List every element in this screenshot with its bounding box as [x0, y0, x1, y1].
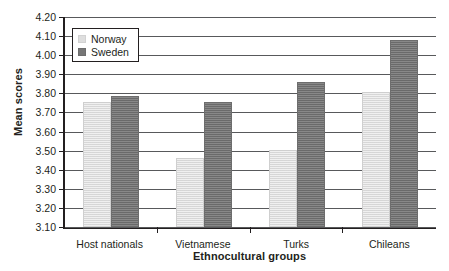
bar-pair: [251, 17, 344, 227]
y-axis-tick-label: 3.20: [22, 202, 56, 214]
legend-item-norway: Norway: [78, 32, 129, 45]
y-axis-tick-label: 4.20: [22, 11, 56, 23]
bar-sweden-chileans[interactable]: [390, 40, 418, 227]
bar-norway-host-nationals[interactable]: [83, 102, 111, 227]
bar-norway-turks[interactable]: [269, 150, 297, 227]
y-axis-tick-label: 3.60: [22, 126, 56, 138]
y-axis-tick: [59, 227, 65, 228]
x-axis-tick-label: Vietnamese: [156, 229, 249, 250]
bar-sweden-host-nationals[interactable]: [111, 96, 139, 227]
y-axis-tick-label: 3.70: [22, 106, 56, 118]
bar-group: [251, 17, 344, 227]
legend-swatch-sweden-icon: [78, 48, 86, 56]
bar-pair: [158, 17, 251, 227]
y-axis-tick-label: 3.90: [22, 68, 56, 80]
x-axis-tick-label: Host nationals: [63, 229, 156, 250]
y-axis-tick-label: 4.10: [22, 30, 56, 42]
bar-norway-vietnamese[interactable]: [176, 158, 204, 227]
bar-sweden-vietnamese[interactable]: [204, 102, 232, 227]
x-axis-tick-label: Chileans: [343, 229, 436, 250]
legend-item-sweden: Sweden: [78, 45, 129, 58]
y-axis-tick-label: 3.10: [22, 221, 56, 233]
bar-group: [158, 17, 251, 227]
gridline: [65, 227, 436, 228]
legend-label-sweden: Sweden: [91, 46, 129, 58]
legend-label-norway: Norway: [91, 33, 127, 45]
legend: Norway Sweden: [72, 28, 139, 62]
y-axis-tick-label: 3.30: [22, 183, 56, 195]
y-axis-tick-label: 3.80: [22, 87, 56, 99]
y-axis-title: Mean scores: [12, 47, 24, 157]
legend-swatch-norway-icon: [78, 35, 86, 43]
x-axis-title: Ethnocultural groups: [63, 250, 436, 262]
bar-group: [343, 17, 436, 227]
bar-sweden-turks[interactable]: [297, 82, 325, 227]
x-axis-tick-labels: Host nationalsVietnameseTurksChileans: [63, 229, 436, 250]
bar-chart-figure: Mean scores 4.204.104.003.903.803.703.60…: [0, 0, 449, 271]
bar-pair: [343, 17, 436, 227]
y-axis-tick-label: 3.50: [22, 145, 56, 157]
y-axis-tick-label: 3.40: [22, 164, 56, 176]
y-axis-tick-label: 4.00: [22, 49, 56, 61]
bar-norway-chileans[interactable]: [362, 92, 390, 227]
x-axis-tick-label: Turks: [250, 229, 343, 250]
